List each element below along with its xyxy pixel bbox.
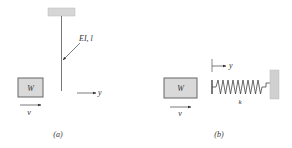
displacement-label: y	[228, 61, 233, 70]
figure-b: W v y k (b)	[164, 59, 279, 139]
spring	[212, 80, 270, 94]
spring-label: k	[238, 98, 242, 106]
diagram: EI, l W v y (a) W v y k (b)	[0, 0, 292, 148]
caption-b: (b)	[214, 130, 224, 139]
velocity-label: v	[178, 109, 182, 118]
beam-label: EI, l	[78, 34, 94, 43]
velocity-label: v	[27, 108, 31, 117]
beam-label-leader-arrow	[63, 43, 80, 60]
fixed-wall	[270, 70, 279, 99]
figure-a: EI, l W v y (a)	[18, 8, 102, 139]
displacement-label: y	[97, 88, 102, 97]
caption-a: (a)	[53, 130, 63, 139]
ceiling-support	[48, 8, 75, 16]
